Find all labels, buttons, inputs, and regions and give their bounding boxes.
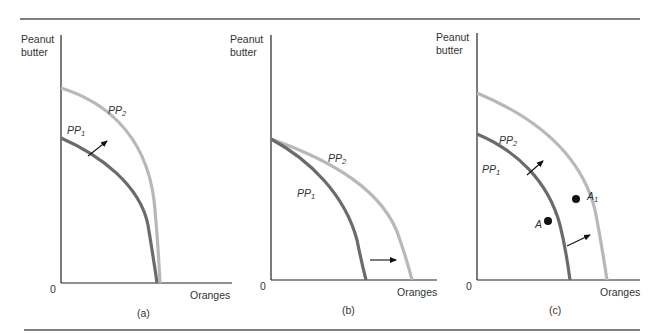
y-axis-label-line1: Peanut bbox=[230, 33, 263, 45]
panel-a: Peanut butter 0 Oranges (a) PP1 PP2 bbox=[21, 33, 232, 319]
x-axis-label: Oranges bbox=[397, 286, 437, 298]
shift-arrow bbox=[88, 141, 107, 156]
pp1-curve bbox=[477, 134, 570, 280]
shift-arrow-lower bbox=[567, 235, 590, 246]
panel-b: Peanut butter 0 Oranges (b) PP1 PP2 bbox=[230, 33, 437, 316]
pp2-curve bbox=[61, 88, 160, 283]
origin-label: 0 bbox=[466, 280, 472, 292]
point-a-label: A bbox=[534, 218, 542, 230]
y-axis-label-line1: Peanut bbox=[21, 33, 54, 45]
pp1-label: PP1 bbox=[482, 163, 500, 177]
origin-label: 0 bbox=[260, 280, 266, 292]
x-axis-label: Oranges bbox=[600, 286, 640, 298]
panel-caption: (c) bbox=[549, 304, 561, 316]
point-a1-label: A1 bbox=[586, 190, 598, 204]
point-a bbox=[544, 217, 552, 225]
y-axis-label-line2: butter bbox=[21, 46, 48, 58]
pp1-label: PP1 bbox=[297, 187, 315, 201]
pp2-label: PP2 bbox=[499, 134, 518, 148]
pp2-label: PP2 bbox=[328, 152, 347, 166]
panel-caption: (a) bbox=[137, 307, 150, 319]
pp2-label: PP2 bbox=[108, 104, 127, 118]
x-axis-label: Oranges bbox=[190, 289, 230, 301]
y-axis-label-line1: Peanut bbox=[436, 31, 469, 43]
ppf-figure: Peanut butter 0 Oranges (a) PP1 PP2 Pean… bbox=[0, 0, 660, 335]
point-a1 bbox=[572, 195, 580, 203]
panel-caption: (b) bbox=[342, 304, 355, 316]
origin-label: 0 bbox=[50, 283, 56, 295]
pp1-label: PP1 bbox=[67, 124, 85, 138]
y-axis-label-line2: butter bbox=[436, 44, 463, 56]
y-axis-label-line2: butter bbox=[230, 46, 257, 58]
panel-c: Peanut butter 0 Oranges (c) A A1 PP1 PP2 bbox=[436, 31, 640, 316]
